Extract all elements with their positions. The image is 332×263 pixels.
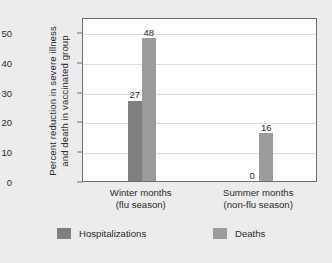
x-category-label-line-1: Summer months	[223, 187, 293, 199]
x-category-label-line-2: (flu season)	[110, 199, 172, 211]
legend-label: Hospitalizations	[79, 228, 146, 239]
bar-value-label: 27	[129, 89, 140, 100]
legend-swatch	[213, 228, 227, 239]
bar-value-label: 16	[261, 122, 272, 133]
y-tick-label: 0	[0, 177, 12, 188]
y-axis-label-line-2: and death in vaccinated group	[59, 26, 71, 176]
plot-area: 2748016	[82, 18, 317, 182]
legend-item-deaths[interactable]: Deaths	[213, 226, 265, 240]
y-axis-label: Percent reduction in severe illness and …	[30, 8, 88, 194]
x-category-label-line-2: (non-flu season)	[223, 199, 293, 211]
x-category-label: Summer months(non-flu season)	[223, 187, 293, 210]
y-tick-label: 50	[0, 27, 12, 38]
legend-swatch	[57, 228, 71, 239]
bar-value-label: 48	[143, 27, 154, 38]
y-axis-label-line-1: Percent reduction in severe illness	[47, 26, 59, 176]
x-category-label: Winter months(flu season)	[110, 187, 172, 210]
gridline	[83, 34, 316, 35]
chart-figure: Percent reduction in severe illness and …	[0, 0, 332, 263]
bar-value-label: 0	[250, 170, 255, 181]
y-tick-label: 10	[0, 147, 12, 158]
gridline	[83, 153, 316, 154]
bar	[142, 38, 156, 181]
bar	[128, 101, 142, 182]
gridline	[83, 123, 316, 124]
bar	[259, 133, 273, 181]
x-category-label-line-1: Winter months	[110, 187, 172, 199]
gridline	[83, 64, 316, 65]
gridline	[83, 94, 316, 95]
y-tick-label: 40	[0, 57, 12, 68]
legend-label: Deaths	[235, 228, 265, 239]
chart-legend: HospitalizationsDeaths	[0, 226, 332, 242]
y-tick-label: 20	[0, 117, 12, 128]
y-tick-label: 30	[0, 87, 12, 98]
legend-item-hospitalizations[interactable]: Hospitalizations	[57, 226, 146, 240]
